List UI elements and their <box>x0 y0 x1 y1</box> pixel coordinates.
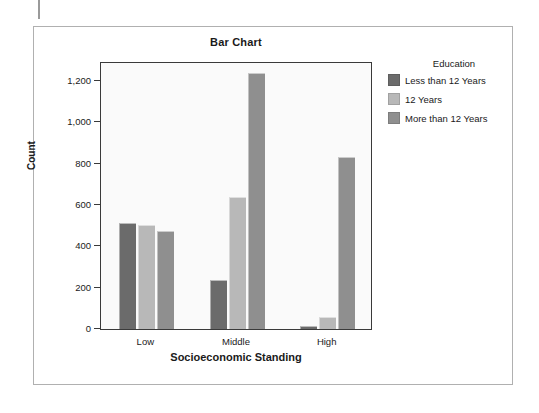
legend-entries: Less than 12 Years12 YearsMore than 12 Y… <box>388 74 508 124</box>
y-axis-title: Count <box>26 141 37 170</box>
page-edge-rule <box>38 0 40 19</box>
bar <box>119 223 136 329</box>
bars-container <box>101 63 371 329</box>
bar <box>157 231 174 329</box>
bar <box>138 225 155 329</box>
x-axis-tick-label: High <box>317 336 337 347</box>
x-axis-title: Socioeconomic Standing <box>100 351 372 363</box>
y-axis-tick-label: 0 <box>86 323 91 335</box>
bar <box>300 326 317 329</box>
legend-title: Education <box>400 58 508 69</box>
legend-entry: 12 Years <box>388 93 508 105</box>
legend-entry-label: 12 Years <box>405 94 442 105</box>
legend-swatch <box>388 93 400 105</box>
bar <box>338 157 355 329</box>
x-axis-tick-label: Low <box>137 336 154 347</box>
bar <box>248 73 265 329</box>
x-axis-tick-label: Middle <box>222 336 250 347</box>
x-axis: LowMiddleHigh <box>100 336 372 350</box>
legend-entry-label: More than 12 Years <box>405 113 487 124</box>
legend-entry: Less than 12 Years <box>388 74 508 86</box>
y-axis: 02004006008001,0001,200 <box>0 62 100 332</box>
y-axis-tick-label: 800 <box>75 158 91 170</box>
bar <box>319 317 336 329</box>
bar <box>229 197 246 329</box>
y-axis-tick-label: 600 <box>75 199 91 211</box>
legend-entry: More than 12 Years <box>388 112 508 124</box>
legend-entry-label: Less than 12 Years <box>405 75 486 86</box>
plot-area <box>100 62 372 330</box>
y-axis-tick-label: 400 <box>75 240 91 252</box>
y-axis-tick-label: 200 <box>75 282 91 294</box>
legend-swatch <box>388 112 400 124</box>
y-axis-tick-label: 1,200 <box>67 75 91 87</box>
legend: Education Less than 12 Years12 YearsMore… <box>388 58 508 131</box>
chart-title: Bar Chart <box>100 36 372 48</box>
y-axis-tick-label: 1,000 <box>67 116 91 128</box>
bar <box>210 280 227 329</box>
legend-swatch <box>388 74 400 86</box>
